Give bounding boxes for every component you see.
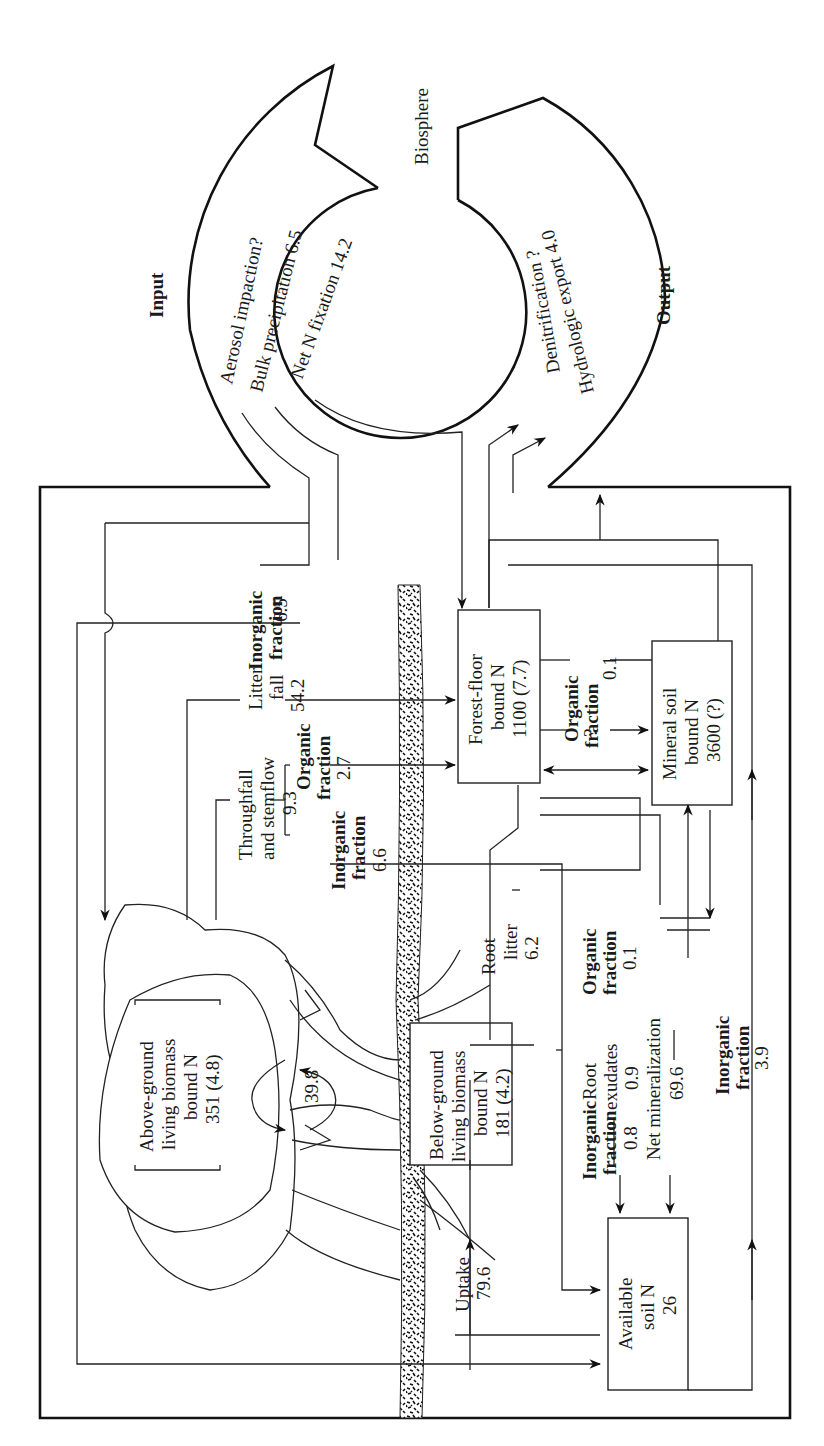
box-forest-floor: Forest-floor bound N 1100 (7.7) bbox=[458, 610, 540, 783]
svg-text:soil N: soil N bbox=[637, 1284, 658, 1330]
box-available-soil: Available soil N 26 bbox=[608, 1218, 688, 1390]
svg-text:181 (4.2): 181 (4.2) bbox=[492, 1068, 514, 1138]
svg-text:Root: Root bbox=[478, 937, 499, 975]
svg-text:Litter: Litter bbox=[245, 667, 266, 710]
svg-text:bound N: bound N bbox=[487, 664, 508, 730]
svg-text:69.6: 69.6 bbox=[666, 1067, 687, 1100]
svg-text:bound N: bound N bbox=[470, 1070, 491, 1136]
svg-text:Inorganic: Inorganic bbox=[328, 811, 349, 890]
svg-text:fall: fall bbox=[266, 675, 287, 700]
svg-text:9.3: 9.3 bbox=[279, 791, 300, 815]
svg-text:living biomass: living biomass bbox=[158, 1039, 179, 1150]
biosphere-labels: Biosphere Input Aerosol impaction? Bulk … bbox=[146, 88, 674, 396]
svg-text:Organic: Organic bbox=[579, 929, 600, 996]
biosphere-label: Biosphere bbox=[411, 88, 432, 165]
svg-text:3.9: 3.9 bbox=[751, 1046, 772, 1070]
svg-text:54.2: 54.2 bbox=[287, 679, 308, 712]
svg-text:?: ? bbox=[580, 729, 601, 737]
svg-text:living biomass: living biomass bbox=[448, 1051, 469, 1162]
svg-text:Above-ground: Above-ground bbox=[136, 1041, 157, 1152]
svg-text:6.5: 6.5 bbox=[270, 598, 291, 622]
svg-text:3600 (?): 3600 (?) bbox=[703, 698, 725, 762]
svg-text:Throughfall: Throughfall bbox=[235, 769, 256, 860]
nitrogen-cycle-diagram: Biosphere Input Aerosol impaction? Bulk … bbox=[0, 0, 824, 1446]
svg-text:1100 (7.7): 1100 (7.7) bbox=[509, 660, 531, 738]
svg-text:fraction: fraction bbox=[348, 815, 369, 880]
svg-text:Below-ground: Below-ground bbox=[426, 1050, 447, 1160]
svg-text:fraction: fraction bbox=[581, 683, 602, 748]
svg-text:exudates: exudates bbox=[600, 1044, 621, 1110]
svg-text:0.9: 0.9 bbox=[621, 1066, 642, 1090]
svg-text:Uptake: Uptake bbox=[452, 1257, 473, 1312]
flow-39-8: 39.8 bbox=[301, 1070, 322, 1103]
svg-text:0.8: 0.8 bbox=[620, 1126, 641, 1150]
svg-text:0.1: 0.1 bbox=[599, 656, 620, 680]
input-heading: Input bbox=[146, 272, 167, 318]
svg-text:fraction: fraction bbox=[599, 930, 620, 995]
svg-text:fraction: fraction bbox=[599, 1110, 620, 1175]
svg-text:0.1: 0.1 bbox=[619, 946, 640, 970]
svg-text:Available: Available bbox=[615, 1278, 636, 1350]
svg-text:Organic: Organic bbox=[561, 676, 582, 743]
svg-text:26: 26 bbox=[659, 1296, 680, 1315]
box-mineral-soil: Mineral soil bound N 3600 (?) bbox=[652, 641, 732, 805]
svg-text:Mineral soil: Mineral soil bbox=[659, 688, 680, 780]
svg-text:Forest-floor: Forest-floor bbox=[465, 654, 486, 745]
svg-text:Inorganic: Inorganic bbox=[579, 1101, 600, 1180]
svg-text:Root: Root bbox=[579, 1062, 600, 1100]
svg-text:fraction: fraction bbox=[313, 735, 334, 800]
svg-text:6.2: 6.2 bbox=[521, 936, 542, 960]
biosphere-channel-lines bbox=[242, 400, 545, 608]
box-below-ground: Below-ground living biomass bound N 181 … bbox=[410, 1023, 514, 1165]
svg-text:and stemflow: and stemflow bbox=[257, 757, 278, 860]
svg-text:351 (4.8): 351 (4.8) bbox=[202, 1054, 224, 1124]
svg-text:fraction: fraction bbox=[732, 1025, 753, 1090]
svg-text:6.6: 6.6 bbox=[369, 848, 390, 872]
svg-text:bound N: bound N bbox=[180, 1054, 201, 1120]
svg-text:79.6: 79.6 bbox=[473, 1267, 494, 1300]
svg-text:Net mineralization: Net mineralization bbox=[643, 1018, 664, 1160]
svg-text:Inorganic: Inorganic bbox=[712, 1016, 733, 1095]
soil-layer bbox=[396, 585, 425, 1418]
svg-text:Inorganic: Inorganic bbox=[245, 591, 266, 670]
svg-text:bound N: bound N bbox=[681, 699, 702, 765]
output-heading: Output bbox=[653, 265, 674, 325]
svg-text:Organic: Organic bbox=[293, 724, 314, 791]
svg-text:litter: litter bbox=[500, 923, 521, 960]
svg-text:2.7: 2.7 bbox=[333, 756, 354, 780]
